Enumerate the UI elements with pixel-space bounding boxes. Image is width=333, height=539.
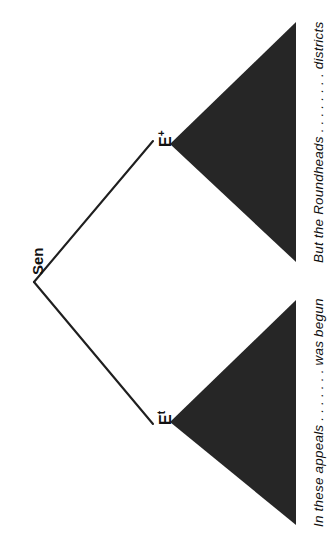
node-right-superscript: + — [156, 130, 167, 136]
node-left-superscript: t — [156, 411, 167, 414]
triangle-left-constituent — [170, 300, 296, 525]
root-node-label: Sen — [30, 247, 45, 275]
terminal-text-right: But the Roundheads . . . . . . . . distr… — [312, 22, 326, 263]
syntax-tree-graphic — [0, 0, 333, 539]
node-label-e-plus: E+ — [158, 130, 174, 147]
branch-to-left-node — [34, 282, 153, 424]
diagram-canvas: Sen Et E+ In these appeals . . . . . . .… — [0, 0, 333, 539]
node-label-e-t: Et — [158, 411, 174, 425]
branch-to-right-node — [34, 141, 153, 282]
terminal-text-left: In these appeals . . . . . . . was begun — [312, 298, 326, 527]
triangle-right-constituent — [170, 22, 296, 262]
node-left-base: E — [157, 414, 174, 425]
node-right-base: E — [157, 136, 174, 147]
